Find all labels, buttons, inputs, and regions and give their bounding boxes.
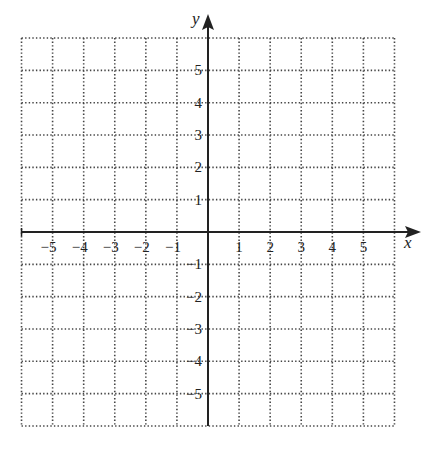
x-tick-label: −2 (134, 239, 150, 255)
x-tick-label: −3 (103, 239, 119, 255)
y-tick-label: −5 (186, 386, 202, 402)
y-tick-label: −4 (186, 353, 202, 369)
x-axis-label: x (403, 233, 412, 252)
y-tick-label: 3 (195, 127, 203, 143)
x-tick-label: −1 (165, 239, 181, 255)
y-tick-label: 4 (195, 95, 203, 111)
x-tick-label: −4 (72, 239, 88, 255)
y-tick-label: 1 (195, 192, 203, 208)
y-tick-label: 2 (195, 159, 203, 175)
x-tick-labels: −5−4−3−2−112345 (41, 239, 368, 255)
coordinate-plane: x y −5−4−3−2−112345 54321−1−2−3−4−5 (0, 0, 436, 454)
x-tick-label: 5 (360, 239, 368, 255)
y-tick-label: 5 (195, 62, 203, 78)
y-tick-label: −3 (186, 321, 202, 337)
x-tick-label: 1 (235, 239, 243, 255)
x-tick-label: 2 (266, 239, 274, 255)
y-axis-label: y (190, 9, 200, 28)
x-tick-label: 4 (329, 239, 337, 255)
axes: x y (22, 9, 421, 426)
y-tick-label: −1 (186, 256, 202, 272)
x-tick-label: −5 (41, 239, 57, 255)
x-tick-label: 3 (297, 239, 305, 255)
y-tick-label: −2 (186, 289, 202, 305)
